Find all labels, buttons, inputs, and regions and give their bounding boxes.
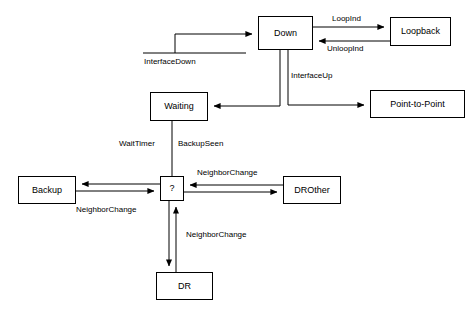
edge-label-interface_up: InterfaceUp	[291, 72, 332, 80]
state-node-question[interactable]: ?	[160, 176, 184, 201]
state-node-down[interactable]: Down	[258, 16, 313, 50]
state-diagram-canvas: DownLoopbackPoint-to-PointWaitingBackup?…	[0, 0, 470, 314]
edge-label-wait_timer: WaitTimer	[119, 140, 155, 148]
edge-label-nc_drother: NeighborChange	[197, 169, 258, 177]
edge-label-backup_seen: BackupSeen	[178, 140, 223, 148]
state-node-waiting[interactable]: Waiting	[150, 92, 208, 121]
state-node-drother[interactable]: DROther	[283, 176, 341, 204]
state-node-dr[interactable]: DR	[156, 272, 213, 300]
state-node-loopback[interactable]: Loopback	[390, 17, 451, 46]
edge-label-loopind: LoopInd	[332, 15, 361, 23]
edge-layer	[0, 0, 470, 314]
edge-label-unloopind: UnloopInd	[327, 45, 363, 53]
edge-label-nc_dr: NeighborChange	[186, 231, 247, 239]
edge-label-nc_backup: NeighborChange	[76, 206, 137, 214]
edge-label-interface_down: InterfaceDown	[144, 58, 196, 66]
state-node-point_to_point[interactable]: Point-to-Point	[370, 90, 465, 118]
state-node-backup[interactable]: Backup	[18, 176, 76, 204]
